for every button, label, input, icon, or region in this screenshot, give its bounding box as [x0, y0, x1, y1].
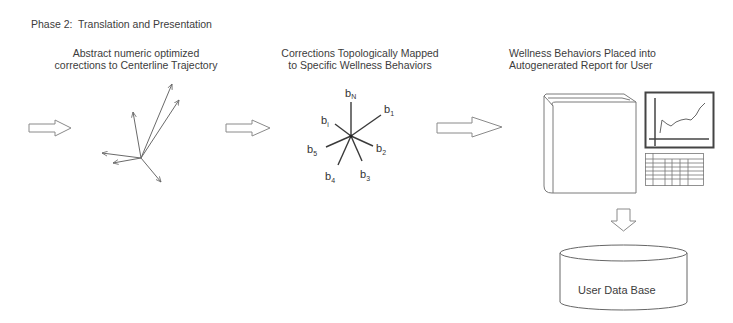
arrow-right-icon: [29, 120, 71, 136]
label-b3: b3: [360, 168, 370, 182]
report-chart-icon: [646, 93, 714, 148]
label-bi: bi: [321, 114, 329, 128]
arrow-right-icon: [226, 120, 270, 136]
database-label: User Data Base: [578, 284, 656, 296]
label-b1: b1: [384, 103, 394, 117]
diagram-canvas: bN b1 bi b2 b3 b4 b5: [0, 0, 733, 323]
database-cylinder-icon: [560, 245, 687, 310]
label-b4: b4: [325, 170, 335, 184]
label-b5: b5: [307, 143, 317, 157]
label-b2: b2: [376, 142, 386, 156]
behavior-star-icon: [326, 102, 381, 165]
arrow-down-icon: [611, 209, 636, 231]
vector-bundle-icon: [102, 84, 179, 182]
label-bN: bN: [345, 87, 356, 100]
report-table-icon: [645, 153, 704, 186]
arrow-right-icon: [437, 117, 502, 137]
report-book-icon: [544, 94, 636, 193]
